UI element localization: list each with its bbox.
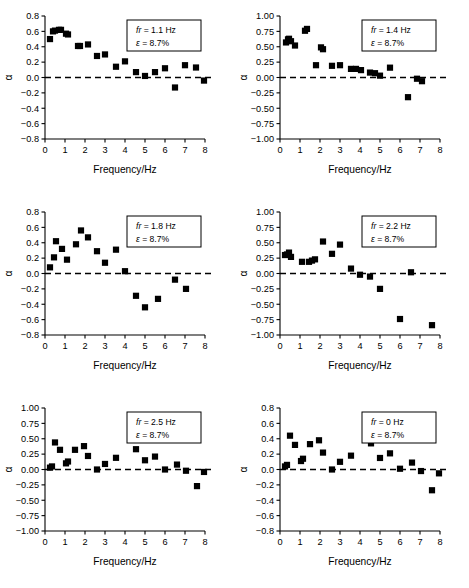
data-point-marker	[174, 461, 180, 467]
ytick-label: −1.00	[251, 134, 274, 144]
data-point-marker	[397, 466, 403, 472]
annotation-epsilon-text: ε = 8.7%	[136, 234, 170, 244]
ytick-label: −0.4	[21, 104, 39, 114]
ytick-label: 0.0	[261, 465, 274, 475]
scatter-panel-2: 1.000.750.500.250.00−0.25−0.50−0.75−1.00…	[235, 0, 469, 196]
data-point-marker	[133, 446, 139, 452]
data-point-marker	[113, 247, 119, 253]
data-point-marker	[409, 459, 415, 465]
data-point-marker	[102, 461, 108, 467]
ytick-label: −0.6	[21, 315, 39, 325]
xtick-label: 0	[277, 341, 282, 351]
ytick-label: 0.00	[256, 73, 274, 83]
data-point-marker	[387, 65, 393, 71]
data-point-marker	[47, 36, 53, 42]
data-point-marker	[65, 31, 71, 37]
data-point-marker	[320, 46, 326, 52]
xtick-label: 7	[182, 341, 187, 351]
ytick-label: 0.25	[256, 253, 274, 263]
data-point-marker	[72, 447, 78, 453]
ytick-label: −0.25	[251, 88, 274, 98]
data-point-marker	[65, 458, 71, 464]
ytick-label: 0.8	[261, 403, 274, 413]
xtick-label: 5	[377, 537, 382, 547]
data-point-marker	[304, 26, 310, 32]
xtick-label: 2	[317, 537, 322, 547]
annotation-epsilon-text: ε = 8.7%	[136, 38, 170, 48]
xtick-label: 3	[102, 145, 107, 155]
xtick-label: 0	[42, 341, 47, 351]
data-point-marker	[172, 84, 178, 90]
data-point-marker	[77, 43, 83, 49]
xtick-label: 2	[317, 341, 322, 351]
ytick-label: −0.75	[251, 315, 274, 325]
xtick-label: 5	[142, 145, 147, 155]
ytick-label: −1.00	[251, 330, 274, 340]
xtick-label: 1	[297, 537, 302, 547]
data-point-marker	[329, 63, 335, 69]
data-point-marker	[397, 316, 403, 322]
plot-area-6: 0.80.60.40.20.0−0.2−0.4−0.6−0.8012345678…	[235, 392, 469, 588]
ytick-label: −0.75	[16, 511, 39, 521]
ytick-label: 0.25	[256, 57, 274, 67]
data-point-marker	[408, 269, 414, 275]
y-axis-title: α	[3, 74, 14, 80]
data-point-marker	[64, 257, 70, 263]
data-point-marker	[133, 293, 139, 299]
ytick-label: 0.2	[261, 449, 274, 459]
ytick-label: 0.4	[261, 434, 274, 444]
data-point-marker	[201, 469, 207, 475]
data-point-marker	[122, 58, 128, 64]
data-point-marker	[183, 286, 189, 292]
data-point-marker	[162, 65, 168, 71]
ytick-label: −1.00	[16, 526, 39, 536]
ytick-label: −0.25	[16, 480, 39, 490]
data-point-marker	[122, 268, 128, 274]
xtick-label: 2	[317, 145, 322, 155]
ytick-label: 0.75	[256, 223, 274, 233]
data-point-marker	[312, 256, 318, 262]
x-axis-title: Frequency/Hz	[328, 164, 391, 175]
ytick-label: 0.50	[256, 238, 274, 248]
xtick-label: 2	[82, 537, 87, 547]
y-axis-title: α	[238, 466, 249, 472]
scatter-panel-5: 1.000.750.500.250.00−0.25−0.50−0.75−1.00…	[0, 392, 234, 588]
annotation-fr-text: fr = 2.2 Hz	[371, 221, 411, 231]
data-point-marker	[377, 73, 383, 79]
data-point-marker	[47, 264, 53, 270]
annotation-fr-text: fr = 0 Hz	[371, 417, 404, 427]
plot-area-2: 1.000.750.500.250.00−0.25−0.50−0.75−1.00…	[235, 0, 469, 196]
ytick-label: 0.6	[261, 419, 274, 429]
data-point-marker	[320, 238, 326, 244]
data-point-marker	[329, 466, 335, 472]
data-point-marker	[182, 62, 188, 68]
data-point-marker	[183, 468, 189, 474]
xtick-label: 5	[142, 341, 147, 351]
data-point-marker	[348, 265, 354, 271]
xtick-label: 4	[122, 145, 127, 155]
xtick-label: 1	[62, 145, 67, 155]
data-point-marker	[320, 449, 326, 455]
xtick-label: 1	[297, 145, 302, 155]
xtick-label: 3	[337, 145, 342, 155]
data-point-marker	[429, 487, 435, 493]
ytick-label: −0.6	[21, 119, 39, 129]
data-point-marker	[102, 260, 108, 266]
ytick-label: 0.6	[26, 223, 39, 233]
annotation-fr-text: fr = 2.5 Hz	[136, 417, 176, 427]
annotation-epsilon-text: ε = 8.7%	[371, 38, 405, 48]
ytick-label: −0.25	[251, 284, 274, 294]
data-point-marker	[142, 457, 148, 463]
ytick-label: 0.2	[26, 253, 39, 263]
data-point-marker	[52, 439, 58, 445]
data-point-marker	[51, 254, 57, 260]
data-point-marker	[329, 251, 335, 257]
scatter-panel-4: 1.000.750.500.250.00−0.25−0.50−0.75−1.00…	[235, 196, 469, 392]
ytick-label: −0.75	[251, 119, 274, 129]
scatter-panel-3: 0.80.60.40.20.0−0.2−0.4−0.6−0.8012345678…	[0, 196, 234, 392]
xtick-label: 6	[397, 145, 402, 155]
data-point-marker	[377, 286, 383, 292]
xtick-label: 8	[202, 341, 207, 351]
xtick-label: 6	[397, 537, 402, 547]
data-point-marker	[152, 69, 158, 75]
